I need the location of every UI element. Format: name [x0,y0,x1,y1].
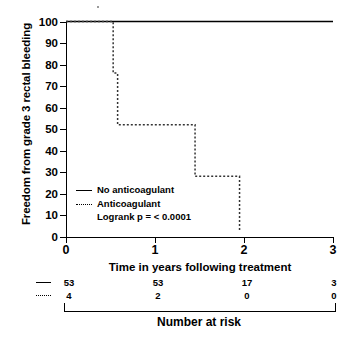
legend-solid-line-icon [76,190,92,191]
x-axis-line [66,237,334,238]
kaplan-meier-figure: Freedom from grade 3 rectal bleeding 100… [0,0,354,345]
risk-count: 53 [52,277,86,288]
risk-count: 0 [230,290,264,301]
y-tick-label: 80 [0,59,58,71]
y-tick-label: 10 [0,209,58,221]
x-tick-label: 1 [140,243,170,257]
y-axis-line [66,21,67,238]
number-at-risk-title: Number at risk [64,315,334,329]
number-at-risk-table: 53 53 17 3 4 2 0 0 Number at risk [0,276,354,345]
risk-solid-line-icon [36,282,51,283]
risk-count: 0 [317,290,351,301]
y-tick-label: 90 [0,37,58,49]
risk-count: 17 [230,277,264,288]
scan-artifact-dot [97,6,99,8]
legend-dashed-line-icon [76,204,92,205]
risk-count: 2 [141,290,175,301]
y-tick-label: 0 [0,231,58,243]
risk-count: 3 [317,277,351,288]
y-tick-label: 70 [0,80,58,92]
risk-table-bracket [64,303,336,312]
y-tick-label: 60 [0,102,58,114]
risk-count: 53 [141,277,175,288]
legend-item-anticoagulant: Anticoagulant [76,198,236,211]
x-tick-label: 0 [51,243,81,257]
legend-item-no-anticoagulant: No anticoagulant [76,184,236,197]
x-tick-label: 3 [318,243,348,257]
y-tick-label: 40 [0,145,58,157]
logrank-statistic: Logrank p = < 0.0001 [97,211,191,222]
x-tick-label: 2 [229,243,259,257]
y-tick-label: 50 [0,123,58,135]
legend-label: No anticoagulant [97,184,174,195]
y-tick-label: 30 [0,166,58,178]
risk-dashed-line-icon [36,295,51,296]
y-tick-label: 100 [0,16,58,28]
legend-label: Anticoagulant [97,198,160,209]
risk-count: 4 [52,290,86,301]
chart-legend: No anticoagulant Anticoagulant Logrank p… [76,184,236,212]
y-tick-label: 20 [0,188,58,200]
x-axis-title: Time in years following treatment [66,261,334,273]
